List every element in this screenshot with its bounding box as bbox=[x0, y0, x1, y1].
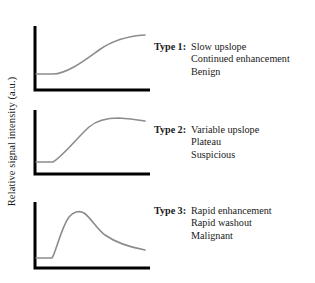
curve-type-1 bbox=[36, 35, 145, 74]
legend-type-1: Type 1: Slow upslope Continued enhanceme… bbox=[154, 41, 315, 78]
curve-type-2 bbox=[36, 118, 145, 162]
legend-type-3-descriptions: Rapid enhancement Rapid washout Malignan… bbox=[191, 205, 315, 242]
legend-type-2-label: Type 2: bbox=[154, 124, 191, 136]
figure-dce-curve-types: Relative signal intensity (a.u.) Type 1:… bbox=[0, 0, 315, 283]
chart-panel-type-2 bbox=[33, 110, 150, 176]
legend-type-3-line-2: Rapid washout bbox=[191, 217, 315, 229]
legend-type-3-line-1: Rapid enhancement bbox=[191, 205, 315, 217]
chart-svg-type-1 bbox=[33, 26, 150, 92]
legend-type-2: Type 2: Variable upslope Plateau Suspici… bbox=[154, 124, 315, 161]
chart-svg-type-2 bbox=[33, 110, 150, 176]
legend-type-1-descriptions: Slow upslope Continued enhancement Benig… bbox=[191, 41, 315, 78]
legend-type-2-line-1: Variable upslope bbox=[191, 124, 315, 136]
chart-panel-type-3 bbox=[33, 202, 150, 270]
chart-svg-type-3 bbox=[33, 202, 150, 270]
y-axis-label: Relative signal intensity (a.u.) bbox=[0, 0, 22, 283]
legend-type-2-line-3: Suspicious bbox=[191, 149, 315, 161]
legend-type-1-line-2: Continued enhancement bbox=[191, 53, 315, 65]
curve-type-3 bbox=[36, 212, 145, 258]
legend-type-3-label: Type 3: bbox=[154, 205, 191, 217]
legend-type-1-label: Type 1: bbox=[154, 41, 191, 53]
legend-type-3: Type 3: Rapid enhancement Rapid washout … bbox=[154, 205, 315, 242]
legend-type-3-line-3: Malignant bbox=[191, 230, 315, 242]
legend-type-1-line-3: Benign bbox=[191, 66, 315, 78]
legend-type-1-line-1: Slow upslope bbox=[191, 41, 315, 53]
chart-panel-type-1 bbox=[33, 26, 150, 92]
legend-type-2-descriptions: Variable upslope Plateau Suspicious bbox=[191, 124, 315, 161]
legend-type-2-line-2: Plateau bbox=[191, 136, 315, 148]
